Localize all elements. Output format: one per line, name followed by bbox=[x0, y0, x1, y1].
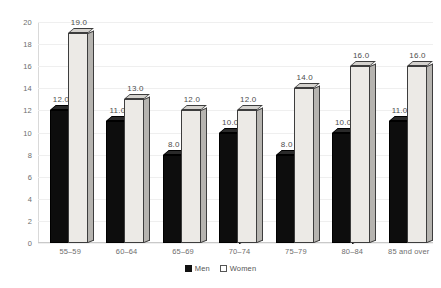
bar-chart: 02468101214161820 12.019.011.013.08.012.… bbox=[0, 0, 441, 288]
bar-women[interactable]: 16.0 bbox=[350, 22, 370, 243]
bar-group: 12.019.0 bbox=[38, 22, 94, 243]
bar-front-face bbox=[124, 99, 144, 243]
bar-side-face bbox=[201, 108, 207, 243]
legend-item-men[interactable]: Men bbox=[185, 264, 210, 273]
bar-front-face bbox=[350, 66, 370, 243]
x-axis-tick-label: 65–69 bbox=[151, 247, 207, 261]
bar-front-face bbox=[50, 110, 70, 243]
bar-front-face bbox=[294, 88, 314, 243]
bar-front-face bbox=[106, 121, 126, 243]
bar-front-face bbox=[181, 110, 201, 243]
x-axis-tick-label: 80–84 bbox=[320, 247, 376, 261]
bar-group: 11.016.0 bbox=[377, 22, 433, 243]
bar-women[interactable]: 12.0 bbox=[181, 22, 201, 243]
bar-side-face bbox=[257, 108, 263, 243]
y-axis-tick-label: 4 bbox=[28, 194, 32, 203]
y-axis-tick-label: 16 bbox=[23, 62, 32, 71]
bar-front-face bbox=[407, 66, 427, 243]
bar-front-face bbox=[163, 155, 183, 243]
bar-side-face bbox=[427, 64, 433, 243]
bar-value-label: 19.0 bbox=[62, 18, 96, 27]
legend-label: Women bbox=[230, 264, 256, 273]
bar-value-label: 16.0 bbox=[344, 51, 378, 60]
bar-group: 8.014.0 bbox=[264, 22, 320, 243]
x-axis-tick-label: 70–74 bbox=[207, 247, 263, 261]
y-axis-tick-label: 8 bbox=[28, 150, 32, 159]
bar-value-label: 12.0 bbox=[231, 95, 265, 104]
bar-men[interactable]: 10.0 bbox=[219, 22, 239, 243]
gridline bbox=[38, 243, 433, 244]
chart-legend: MenWomen bbox=[0, 264, 441, 273]
plot-area: 02468101214161820 12.019.011.013.08.012.… bbox=[38, 22, 433, 243]
bar-women[interactable]: 16.0 bbox=[407, 22, 427, 243]
bar-front-face bbox=[237, 110, 257, 243]
bar-side-face bbox=[144, 97, 150, 243]
bar-women[interactable]: 13.0 bbox=[124, 22, 144, 243]
bar-women[interactable]: 19.0 bbox=[68, 22, 88, 243]
bar-side-face bbox=[370, 64, 376, 243]
y-axis-tick-label: 2 bbox=[28, 216, 32, 225]
legend-item-women[interactable]: Women bbox=[220, 264, 256, 273]
bar-men[interactable]: 12.0 bbox=[50, 22, 70, 243]
bar-front-face bbox=[332, 133, 352, 244]
bar-front-face bbox=[68, 33, 88, 243]
bar-side-face bbox=[314, 86, 320, 243]
y-axis-tick-label: 18 bbox=[23, 40, 32, 49]
x-axis-tick-label: 75–79 bbox=[264, 247, 320, 261]
bar-group: 11.013.0 bbox=[94, 22, 150, 243]
y-axis-tick-label: 10 bbox=[23, 128, 32, 137]
bar-front-face bbox=[276, 155, 296, 243]
bar-group: 10.016.0 bbox=[320, 22, 376, 243]
legend-swatch-icon bbox=[185, 265, 192, 272]
bar-men[interactable]: 8.0 bbox=[276, 22, 296, 243]
y-axis-tick-label: 14 bbox=[23, 84, 32, 93]
bar-value-label: 13.0 bbox=[118, 84, 152, 93]
x-axis-tick-label: 55–59 bbox=[38, 247, 94, 261]
bar-group: 8.012.0 bbox=[151, 22, 207, 243]
bar-value-label: 12.0 bbox=[175, 95, 209, 104]
bar-men[interactable]: 8.0 bbox=[163, 22, 183, 243]
bar-group: 10.012.0 bbox=[207, 22, 263, 243]
legend-label: Men bbox=[195, 264, 210, 273]
bar-groups: 12.019.011.013.08.012.010.012.08.014.010… bbox=[38, 22, 433, 243]
legend-swatch-icon bbox=[220, 265, 227, 272]
bar-front-face bbox=[219, 133, 239, 244]
bar-women[interactable]: 12.0 bbox=[237, 22, 257, 243]
x-axis-tick-label: 85 and over bbox=[377, 247, 433, 261]
x-axis-tick-label: 60–64 bbox=[94, 247, 150, 261]
y-axis-tick-label: 6 bbox=[28, 172, 32, 181]
bar-women[interactable]: 14.0 bbox=[294, 22, 314, 243]
bar-men[interactable]: 11.0 bbox=[106, 22, 126, 243]
y-axis-tick-label: 0 bbox=[28, 239, 32, 248]
bar-value-label: 16.0 bbox=[401, 51, 435, 60]
bar-value-label: 14.0 bbox=[288, 73, 322, 82]
x-axis-tick-labels: 55–5960–6465–6970–7475–7980–8485 and ove… bbox=[38, 247, 433, 261]
y-axis-tick-label: 20 bbox=[23, 18, 32, 27]
y-axis-tick-label: 12 bbox=[23, 106, 32, 115]
bar-side-face bbox=[88, 31, 94, 243]
bar-front-face bbox=[389, 121, 409, 243]
